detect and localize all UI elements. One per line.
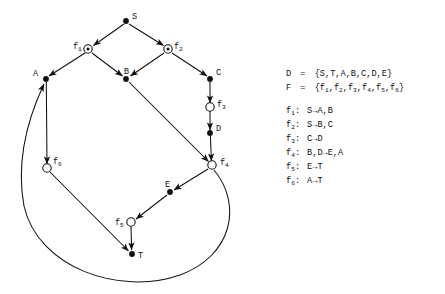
f-set-equals: =: [300, 84, 305, 93]
rule-line-f1: f1:S→A,B: [286, 107, 441, 121]
rule-f4-colon: :: [295, 149, 300, 158]
definition-line-F: F = {f1,f2,f3,f4,f5,f6}: [286, 84, 441, 98]
f4-sub: 4: [225, 162, 229, 169]
f6-sub: 6: [58, 161, 62, 168]
f-set-symbol: F: [286, 84, 291, 93]
f-set-p10: ,f: [385, 83, 395, 93]
node-label-f4: f4: [220, 159, 229, 169]
rule-f6-symbol: f6: [286, 177, 295, 187]
edge-D-f4: [210, 136, 211, 161]
rule-f3-symbol: f3: [286, 135, 295, 145]
rule-f2-symbol: f2: [286, 121, 295, 131]
rule-f6-colon: :: [295, 177, 300, 186]
graph-canvas: [0, 0, 275, 294]
edge-E-f5: [136, 195, 167, 219]
rule-f5-colon: :: [295, 163, 300, 172]
f2-sub: 2: [179, 46, 183, 53]
rule-f3-body: C→D: [307, 134, 322, 144]
graph-edges: [21, 24, 229, 282]
node-A[interactable]: [43, 76, 49, 82]
rule-line-f2: f2:S→B,C: [286, 121, 441, 135]
edge-f4-A-curve: [21, 84, 229, 282]
edge-f2-B: [131, 53, 165, 76]
definitions-panel: D = {S,T,A,B,C,D,E} F = {f1,f2,f3,f4,f5,…: [286, 70, 441, 191]
f3-sub: 3: [222, 104, 226, 111]
d-set-value: {S,T,A,B,C,D,E}: [315, 70, 392, 79]
f-set-p8: ,f: [371, 83, 381, 93]
node-f6[interactable]: [43, 164, 51, 172]
node-f1-token: [87, 48, 90, 51]
f-set-p12: }: [399, 83, 404, 93]
f-set-p2: ,f: [329, 83, 339, 93]
rule-f3-colon: :: [295, 135, 300, 144]
edge-f1-A: [49, 53, 85, 76]
f-set-p0: {f: [315, 83, 325, 93]
rule-line-f4: f4:B,D→E,A: [286, 149, 441, 163]
rule-f4-body: B,D→E,A: [307, 148, 343, 158]
graph-transition-nodes: [43, 45, 216, 226]
node-f4[interactable]: [208, 161, 216, 169]
edge-A-f6: [46, 82, 47, 164]
rule-f2-colon: :: [295, 121, 300, 130]
edge-f5-T: [131, 226, 132, 250]
edge-S-f2: [129, 24, 164, 46]
rule-line-f3: f3:C→D: [286, 135, 441, 149]
node-label-f6: f6: [53, 158, 62, 168]
node-f2-token: [167, 48, 170, 51]
node-label-B: B: [124, 68, 129, 77]
rule-f6-body: A→T: [307, 176, 322, 186]
rule-line-f6: f6:A→T: [286, 177, 441, 191]
edge-f6-T: [50, 172, 129, 251]
edge-f2-C: [172, 53, 207, 76]
node-f3[interactable]: [206, 103, 214, 111]
node-label-E: E: [165, 181, 170, 190]
edge-B-f4: [129, 82, 209, 162]
d-set-equals: =: [300, 70, 305, 79]
rule-f2-body: S→B,C: [307, 120, 333, 130]
rule-f1-colon: :: [295, 107, 300, 116]
node-label-A: A: [33, 70, 38, 79]
node-label-f1: f1: [73, 43, 82, 53]
node-label-S: S: [132, 13, 137, 22]
f-set-p6: ,f: [357, 83, 367, 93]
edge-S-f1: [94, 24, 125, 46]
f-set-value: {f1,f2,f3,f4,f5,f6}: [315, 84, 404, 94]
graph-panel: S A B C D E T f1 f2 f3 f4 f5 f6: [0, 0, 275, 294]
rule-f1-body: S→A,B: [307, 106, 333, 116]
figure-page: S A B C D E T f1 f2 f3 f4 f5 f6 D = {S,T…: [0, 0, 445, 294]
rule-f4-symbol: f4: [286, 149, 295, 159]
rule-f5-body: E→T: [307, 162, 322, 172]
node-S[interactable]: [123, 18, 129, 24]
node-label-C: C: [216, 69, 221, 78]
node-T[interactable]: [129, 251, 135, 257]
f5-sub: 5: [120, 222, 124, 229]
rule-line-f5: f5:E→T: [286, 163, 441, 177]
node-D[interactable]: [207, 130, 213, 136]
node-label-f3: f3: [217, 101, 226, 111]
node-f5[interactable]: [127, 218, 135, 226]
node-label-f2: f2: [174, 43, 183, 53]
node-C[interactable]: [207, 76, 213, 82]
node-label-T: T: [138, 252, 143, 261]
edge-f1-B: [92, 53, 123, 76]
rule-f1-symbol: f1: [286, 107, 295, 117]
f-set-p4: ,f: [343, 83, 353, 93]
rule-f5-symbol: f5: [286, 163, 295, 173]
definition-line-D: D = {S,T,A,B,C,D,E}: [286, 70, 441, 84]
d-set-symbol: D: [286, 70, 291, 79]
f1-sub: 1: [78, 46, 82, 53]
node-label-D: D: [216, 125, 221, 134]
node-label-f5: f5: [115, 219, 124, 229]
edge-f4-E: [174, 169, 208, 190]
